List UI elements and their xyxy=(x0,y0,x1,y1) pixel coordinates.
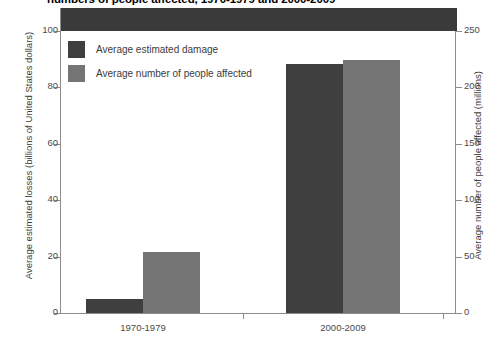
left-tick-label: 60 xyxy=(47,137,58,148)
chart-container: numbers of people affected, 1970-1979 an… xyxy=(0,0,496,342)
legend-swatch-icon xyxy=(68,41,85,58)
right-tick-mark xyxy=(456,31,462,32)
right-tick-mark xyxy=(456,144,462,145)
right-tick-mark xyxy=(456,200,462,201)
x-axis-tick xyxy=(443,313,444,319)
category-label: 2000-2009 xyxy=(283,322,403,333)
bar-2000-2009-series0[interactable] xyxy=(286,64,343,313)
bar-1970-1979-series0[interactable] xyxy=(86,299,143,313)
left-axis-title: Average estimated losses (billions of Un… xyxy=(23,31,34,281)
right-tick-label: 0 xyxy=(464,306,469,317)
bar-2000-2009-series1[interactable] xyxy=(343,60,400,313)
left-tick-label: 0 xyxy=(53,306,58,317)
legend-item[interactable]: Average number of people affected xyxy=(68,62,252,84)
legend-item[interactable]: Average estimated damage xyxy=(68,38,252,60)
left-tick-label: 100 xyxy=(42,24,58,35)
right-tick-mark xyxy=(456,257,462,258)
right-tick-mark xyxy=(456,87,462,88)
legend-label: Average number of people affected xyxy=(96,68,252,79)
chart-legend: Average estimated damage Average number … xyxy=(68,38,252,86)
right-tick-label: 250 xyxy=(464,24,480,35)
legend-label: Average estimated damage xyxy=(96,44,218,55)
left-tick-label: 20 xyxy=(47,250,58,261)
right-tick-mark xyxy=(456,313,462,314)
chart-title: numbers of people affected, 1970-1979 an… xyxy=(47,0,487,5)
legend-swatch-icon xyxy=(68,65,85,82)
category-label: 1970-1979 xyxy=(83,322,203,333)
left-tick-label: 40 xyxy=(47,193,58,204)
bar-1970-1979-series1[interactable] xyxy=(143,252,200,313)
x-axis-line xyxy=(60,313,456,314)
right-axis-title: Average number of people affected (milli… xyxy=(472,41,483,291)
left-tick-label: 80 xyxy=(47,80,58,91)
x-axis-tick xyxy=(243,313,244,319)
